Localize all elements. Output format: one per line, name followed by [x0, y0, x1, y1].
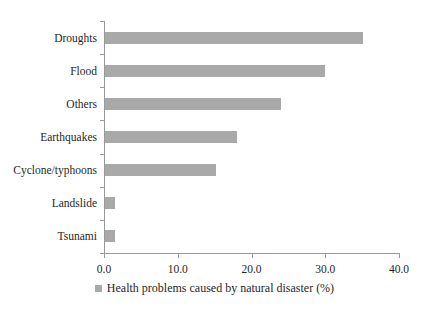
y-axis-tick — [100, 120, 104, 121]
x-axis-tick — [178, 254, 179, 258]
legend: Health problems caused by natural disast… — [0, 281, 429, 296]
bar-cyclone-typhoons — [105, 164, 216, 176]
y-axis-tick — [100, 21, 104, 22]
bar-others — [105, 98, 281, 110]
category-label: Landslide — [0, 196, 97, 210]
bar-earthquakes — [105, 131, 237, 143]
x-tick-label: 0.0 — [79, 262, 129, 276]
x-tick-label: 20.0 — [227, 262, 277, 276]
category-label: Others — [0, 97, 97, 111]
x-axis-tick — [325, 254, 326, 258]
legend-marker-icon — [95, 285, 102, 292]
bar-flood — [105, 65, 325, 77]
x-axis-tick — [104, 254, 105, 258]
x-axis-tick — [252, 254, 253, 258]
bar-tsunami — [105, 230, 115, 242]
legend-label: Health problems caused by natural disast… — [107, 281, 334, 296]
category-label: Flood — [0, 64, 97, 78]
y-axis-tick — [100, 154, 104, 155]
x-axis-tick — [399, 254, 400, 258]
category-label: Cyclone/typhoons — [0, 163, 97, 177]
bar-landslide — [105, 197, 115, 209]
category-label: Droughts — [0, 31, 97, 45]
y-axis-tick — [100, 87, 104, 88]
category-label: Tsunami — [0, 229, 97, 243]
x-tick-label: 10.0 — [153, 262, 203, 276]
bar-droughts — [105, 32, 363, 44]
bar-chart-figure: DroughtsFloodOthersEarthquakesCyclone/ty… — [0, 0, 429, 310]
x-tick-label: 30.0 — [300, 262, 350, 276]
category-label: Earthquakes — [0, 130, 97, 144]
y-axis-tick — [100, 187, 104, 188]
y-axis-tick — [100, 220, 104, 221]
x-tick-label: 40.0 — [374, 262, 424, 276]
plot-area — [104, 21, 400, 254]
y-axis-tick — [100, 54, 104, 55]
